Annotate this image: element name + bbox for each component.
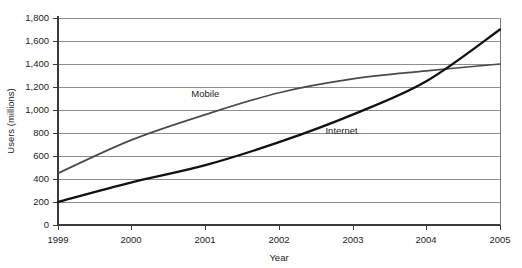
y-tick-label: 1,800: [25, 12, 49, 23]
series-label-mobile: Mobile: [191, 88, 219, 99]
y-tick-label: 0: [44, 219, 49, 230]
y-tick-label: 1,200: [25, 81, 49, 92]
x-tick-label: 2000: [120, 234, 141, 245]
y-tick-label: 1,400: [25, 58, 49, 69]
y-axis-title: Users (millions): [5, 88, 16, 153]
x-tick-label: 2005: [489, 234, 510, 245]
y-tick-label: 600: [33, 150, 49, 161]
y-tick-label: 400: [33, 173, 49, 184]
x-axis-title: Year: [269, 252, 288, 263]
x-tick-label: 2004: [415, 234, 436, 245]
x-tick-label: 2001: [194, 234, 215, 245]
y-tick-label: 1,000: [25, 104, 49, 115]
x-tick-label: 2003: [342, 234, 363, 245]
y-tick-label: 1,600: [25, 35, 49, 46]
chart-background: [0, 0, 522, 268]
line-chart: 1,800 1,600 1,400 1,200 1,000 800 600 40…: [0, 0, 522, 268]
x-tick-label: 1999: [47, 234, 68, 245]
y-tick-label: 800: [33, 127, 49, 138]
chart-canvas: 1,800 1,600 1,400 1,200 1,000 800 600 40…: [0, 0, 522, 268]
series-label-internet: Internet: [325, 125, 358, 136]
y-tick-label: 200: [33, 196, 49, 207]
x-tick-label: 2002: [268, 234, 289, 245]
